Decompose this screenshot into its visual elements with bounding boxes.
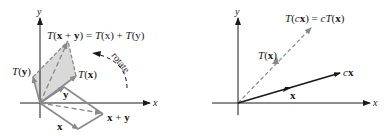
label-cx: cx — [343, 66, 354, 78]
right-label-Tx: T(x) — [258, 49, 277, 62]
left-panel: rotate y x T(x + y) = T(x) + T(y) T(y) T… — [12, 6, 158, 132]
label-Tx: T(x) — [78, 68, 97, 81]
vector-x-plus-y — [40, 103, 101, 113]
right-title-equation: T(cx) = cT(x) — [285, 12, 345, 25]
linear-transformation-figure: rotate y x T(x + y) = T(x) + T(y) T(y) T… — [0, 0, 388, 136]
left-x-axis-label: x — [152, 97, 158, 108]
rotate-label: rotate — [110, 50, 133, 75]
label-y: y — [63, 88, 69, 100]
left-y-axis-label: y — [36, 6, 42, 17]
label-x: x — [57, 120, 63, 132]
parallelogram-side-bottom — [78, 114, 103, 129]
left-title-equation: T(x + y) = T(x) + T(y) — [47, 29, 145, 42]
label-Ty: T(y) — [12, 65, 31, 78]
right-x-axis-label: x — [372, 97, 378, 108]
rotate-arrowhead-icon — [92, 51, 101, 57]
label-x-plus-y: x + y — [107, 111, 130, 123]
right-panel: y x T(cx) = cT(x) T(x) cx x — [212, 6, 378, 115]
right-y-axis-label: y — [234, 6, 240, 17]
right-label-x: x — [290, 89, 296, 101]
